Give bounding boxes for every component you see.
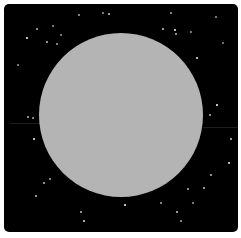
- star-point: [26, 37, 28, 39]
- star-point: [27, 116, 29, 118]
- star-point: [230, 138, 232, 140]
- star-point: [33, 138, 35, 140]
- star-point: [192, 202, 194, 204]
- star-point: [108, 13, 110, 15]
- star-point: [56, 43, 58, 45]
- star-point: [175, 33, 177, 35]
- star-point: [162, 28, 164, 30]
- star-point: [170, 12, 172, 14]
- star-point: [35, 195, 37, 197]
- star-point: [46, 41, 48, 43]
- star-point: [210, 174, 212, 176]
- star-point: [60, 34, 62, 36]
- star-point: [209, 114, 211, 116]
- gray-disc: [39, 33, 203, 197]
- star-point: [174, 29, 176, 31]
- star-point: [216, 104, 218, 106]
- star-point: [80, 211, 82, 213]
- star-point: [83, 220, 85, 222]
- star-point: [196, 57, 198, 59]
- star-point: [176, 211, 178, 213]
- left-faint-streak: [10, 123, 40, 124]
- star-field-background: [4, 4, 238, 232]
- star-point: [102, 12, 104, 14]
- star-point: [43, 182, 45, 184]
- star-point: [228, 162, 230, 164]
- star-point: [17, 64, 19, 66]
- star-point: [180, 220, 182, 222]
- star-point: [78, 14, 80, 16]
- star-point: [124, 204, 126, 206]
- star-point: [203, 187, 205, 189]
- right-faint-streak: [203, 127, 238, 128]
- star-point: [52, 25, 54, 27]
- star-point: [32, 117, 34, 119]
- star-point: [215, 16, 217, 18]
- star-point: [36, 28, 38, 30]
- star-point: [190, 31, 192, 33]
- star-point: [160, 202, 162, 204]
- star-point: [222, 42, 224, 44]
- star-point: [49, 178, 51, 180]
- star-point: [187, 188, 189, 190]
